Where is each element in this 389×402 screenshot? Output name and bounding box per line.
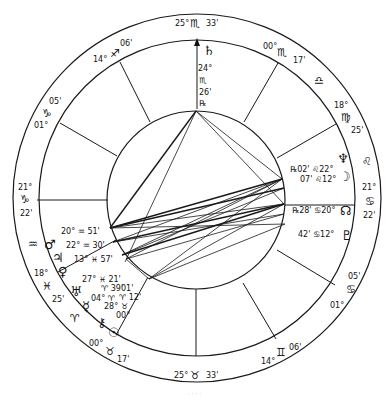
cusp-degree-label: 25' <box>52 295 64 304</box>
cusp-degree-label: 14° <box>261 357 275 366</box>
neptune-pos-label: ℞02' ♌22° <box>290 165 333 174</box>
jupiter-icon: ♃ <box>52 250 64 265</box>
cusp-line-cusp-9 <box>120 62 150 122</box>
saturn-min-label: 26' <box>199 88 211 97</box>
pluto-icon: ♇ <box>341 228 353 243</box>
cusp-degree-label: 05' <box>348 272 360 281</box>
zodiac-sign-icon: ♏ <box>190 17 200 30</box>
mc-arrow-icon <box>194 38 200 46</box>
venus-icon: ♀ <box>58 264 68 279</box>
cusp-degree-label: 17' <box>293 56 305 65</box>
sun-pos-1-label: 01' <box>121 284 133 293</box>
cusp-degree-label: 01° <box>34 121 48 130</box>
zodiac-sign-icon: ♋ <box>346 283 356 296</box>
uranus-pos-2-label: ♈ 39' <box>101 284 123 293</box>
moon-icon: ☽ <box>339 169 351 184</box>
mercury-icon: ☿ <box>82 299 90 314</box>
cusp-degree-label: 25° <box>175 19 189 28</box>
jupiter-pos-label: 22° ♒ 30' <box>66 241 105 250</box>
cusp-degree-label: 18° <box>34 269 48 278</box>
saturn-icon: ♄ <box>203 43 215 58</box>
saturn-retro-label: ℞ <box>199 99 206 108</box>
cusp-line-cusp-2 <box>277 250 335 285</box>
cusp-degree-label: 22' <box>363 211 375 220</box>
natal-chart-wheel: 25°♏33'14°♐06'00°♏17'♎18°♍25'♌21°♋22'05'… <box>0 0 389 402</box>
cusp-degree-label: 18° <box>334 101 348 110</box>
zodiac-sign-icon: ♑ <box>42 107 52 120</box>
aspect-line <box>110 179 282 228</box>
sun-pos-2-label: ♈ 12' <box>119 293 141 302</box>
zodiac-sign-icon: ♊ <box>276 346 286 359</box>
sun-pos-3-label: 28° ♉ <box>104 302 128 311</box>
saturn-sign-label: ♏ <box>199 76 207 85</box>
cusp-degree-label: 00° <box>89 339 103 348</box>
aspect-line <box>110 111 196 228</box>
zodiac-sign-icon: ♉ <box>190 369 200 382</box>
cusp-degree-label: 00° <box>263 42 277 51</box>
node-pos-label: ℞28' ♋20° <box>292 206 335 215</box>
uranus-icon: ♅ <box>70 284 82 299</box>
cusp-degree-label: 06' <box>289 343 301 352</box>
sun-icon: ☉ <box>108 325 120 340</box>
cusp-degree-label: 06' <box>120 39 132 48</box>
cusp-degree-label: 25° <box>174 371 188 380</box>
zodiac-sign-icon: ♑ <box>20 193 30 206</box>
cusp-degree-label: 22' <box>20 209 32 218</box>
moon-pos-label: 07' ♌12° <box>300 175 336 184</box>
cusp-degree-label: 14° <box>93 55 107 64</box>
cusp-line-cusp-11 <box>244 63 278 122</box>
zodiac-sign-icon: ♐ <box>110 47 120 60</box>
chiron-icon: ⚷ <box>97 315 107 330</box>
neptune-icon: ♆ <box>337 151 349 166</box>
north-node-icon: ☊ <box>340 203 352 218</box>
cusp-degree-label: 33' <box>206 371 218 380</box>
aspect-line <box>149 204 284 279</box>
cusp-line-cusp-8 <box>60 123 117 156</box>
zodiac-sign-icon: ♌ <box>362 155 372 168</box>
cusp-degree-label: 17' <box>117 355 129 364</box>
pluto-pos-label: 42' ♋12° <box>298 230 334 239</box>
zodiac-sign-icon: ♈ <box>70 312 80 325</box>
cusp-degree-label: 01° <box>330 301 344 310</box>
mars-pos-label: 20° ♒ 51' <box>61 227 100 236</box>
cusp-degree-label: 21° <box>18 183 32 192</box>
sun-pos-4-label: 00° <box>116 311 130 320</box>
zodiac-sign-icon: ♍ <box>341 111 351 124</box>
cusp-degree-label: 05' <box>49 97 61 106</box>
zodiac-sign-icon: ♏ <box>277 46 287 59</box>
cusp-line-cusp-12 <box>277 124 336 158</box>
aspect-line <box>196 111 282 179</box>
venus-pos-label: 13° ♓ 57' <box>74 255 113 264</box>
aspect-line <box>196 111 284 204</box>
aspect-line <box>122 188 284 255</box>
cusp-degree-label: 25' <box>351 126 363 135</box>
zodiac-sign-icon: ♒ <box>28 238 38 251</box>
chart-caption: · · · · <box>0 390 389 397</box>
zodiac-sign-icon: ♉ <box>105 345 115 358</box>
cusp-degree-label: 21° <box>362 183 376 192</box>
saturn-deg-label: 24° <box>198 64 212 73</box>
uranus-pos-1-label: 27° ♓ 21' <box>82 275 121 284</box>
zodiac-sign-icon: ♓ <box>42 280 52 293</box>
cusp-line-cusp-3 <box>243 283 276 339</box>
planet-glyphs: ♄24°♏26'℞♆℞02' ♌22°☽07' ♌12°☊℞28' ♋20°♇4… <box>44 43 353 340</box>
aspect-circle <box>107 111 285 289</box>
zodiac-sign-icon: ♋ <box>365 195 375 208</box>
zodiac-sign-icon: ♎ <box>314 74 324 87</box>
cusp-degree-label: 33' <box>206 19 218 28</box>
aspect-line <box>126 259 149 279</box>
